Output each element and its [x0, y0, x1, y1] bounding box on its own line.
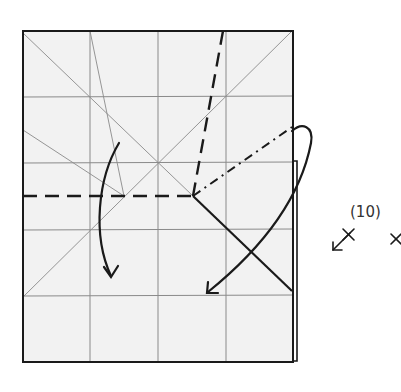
- x-symbol: [391, 234, 401, 244]
- arrow-with-x-symbol: [333, 229, 354, 250]
- origami-diagram: [0, 0, 401, 392]
- step-number-label: (10): [350, 203, 381, 221]
